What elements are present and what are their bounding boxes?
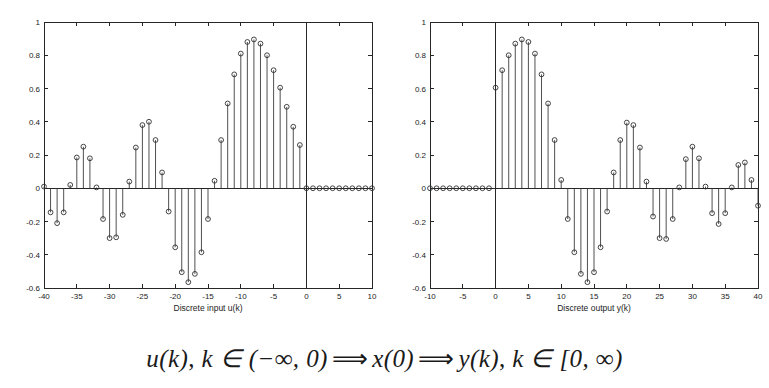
x-tick-label: 0 bbox=[304, 292, 309, 301]
x-tick-label: -20 bbox=[169, 292, 181, 301]
x-tick-label: -40 bbox=[38, 292, 50, 301]
plots-row: -40-35-30-25-20-15-10-50510-0.6-0.4-0.20… bbox=[0, 0, 769, 330]
x-tick-label: -30 bbox=[104, 292, 116, 301]
y-tick-label: -0.4 bbox=[412, 251, 426, 260]
x-tick-label: 25 bbox=[655, 292, 664, 301]
chart-panel-output: -10-50510152025303540-0.6-0.4-0.200.20.4… bbox=[390, 0, 769, 330]
x-axis-label: Discrete output y(k) bbox=[557, 303, 631, 313]
x-tick-label: -15 bbox=[202, 292, 214, 301]
x-tick-label: 35 bbox=[721, 292, 730, 301]
stem-plot-output: -10-50510152025303540-0.6-0.4-0.200.20.4… bbox=[390, 0, 769, 330]
x-tick-label: -35 bbox=[71, 292, 83, 301]
x-tick-label: 10 bbox=[368, 292, 377, 301]
caption-u-of-k: u(k) bbox=[146, 345, 188, 372]
figure-caption: u(k), k ∈ (−∞, 0)⟹x(0)⟹y(k), k ∈ [0, ∞) bbox=[0, 328, 769, 388]
chart-panel-input: -40-35-30-25-20-15-10-50510-0.6-0.4-0.20… bbox=[4, 0, 384, 330]
x-tick-label: 20 bbox=[622, 292, 631, 301]
caption-k-domain-output: k ∈ [0, ∞) bbox=[512, 345, 622, 372]
plot-frame bbox=[44, 22, 372, 288]
x-tick-label: -10 bbox=[235, 292, 247, 301]
stem-series bbox=[42, 37, 375, 285]
y-tick-label: 0 bbox=[36, 184, 41, 193]
figure-container: -40-35-30-25-20-15-10-50510-0.6-0.4-0.20… bbox=[0, 0, 769, 388]
y-tick-label: -0.6 bbox=[412, 284, 426, 293]
x-tick-label: -25 bbox=[137, 292, 149, 301]
stem-plot-input: -40-35-30-25-20-15-10-50510-0.6-0.4-0.20… bbox=[4, 0, 384, 330]
y-tick-label: 0.4 bbox=[29, 118, 41, 127]
y-tick-label: 0.6 bbox=[415, 85, 427, 94]
y-tick-label: -0.2 bbox=[26, 218, 40, 227]
x-tick-label: -10 bbox=[424, 292, 436, 301]
x-tick-label: 5 bbox=[526, 292, 531, 301]
caption-formula: u(k), k ∈ (−∞, 0)⟹x(0)⟹y(k), k ∈ [0, ∞) bbox=[146, 344, 622, 373]
y-tick-label: 0.2 bbox=[29, 151, 41, 160]
caption-comma-2: , bbox=[499, 345, 512, 372]
x-tick-label: 15 bbox=[590, 292, 599, 301]
caption-x-of-0: x(0) bbox=[372, 345, 414, 372]
x-tick-label: 10 bbox=[557, 292, 566, 301]
x-tick-label: 5 bbox=[337, 292, 342, 301]
x-axis-label: Discrete input u(k) bbox=[174, 303, 243, 313]
x-tick-label: 40 bbox=[754, 292, 763, 301]
x-tick-label: 30 bbox=[688, 292, 697, 301]
y-tick-label: 0.8 bbox=[29, 51, 41, 60]
y-tick-label: 0.6 bbox=[29, 85, 41, 94]
stem-series bbox=[428, 37, 761, 285]
y-tick-label: 0.8 bbox=[415, 51, 427, 60]
y-tick-label: -0.6 bbox=[26, 284, 40, 293]
caption-arrow-1: ⟹ bbox=[328, 345, 372, 372]
caption-comma-1: , bbox=[188, 345, 201, 372]
y-tick-label: 0.2 bbox=[415, 151, 427, 160]
x-tick-label: 0 bbox=[493, 292, 498, 301]
caption-k-domain-input: k ∈ (−∞, 0) bbox=[201, 345, 327, 372]
caption-y-of-k: y(k) bbox=[458, 345, 498, 372]
x-tick-label: -5 bbox=[459, 292, 467, 301]
caption-arrow-2: ⟹ bbox=[414, 345, 458, 372]
y-tick-label: 0.4 bbox=[415, 118, 427, 127]
y-tick-label: 1 bbox=[422, 18, 427, 27]
x-tick-label: -5 bbox=[270, 292, 278, 301]
y-tick-label: -0.4 bbox=[26, 251, 40, 260]
y-tick-label: 0 bbox=[422, 184, 427, 193]
y-tick-label: 1 bbox=[36, 18, 41, 27]
y-tick-label: -0.2 bbox=[412, 218, 426, 227]
